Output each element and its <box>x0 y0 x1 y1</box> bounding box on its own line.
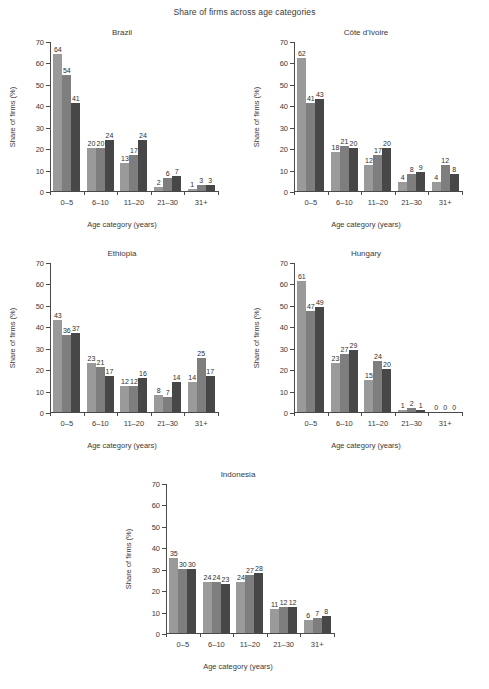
bar-value-label: 8 <box>324 608 328 615</box>
x-axis-tick <box>166 633 167 637</box>
x-axis-category-label: 11–20 <box>368 198 388 207</box>
x-axis-tick <box>50 191 51 195</box>
bar: 27 <box>245 575 254 633</box>
x-axis-category-label: 6–10 <box>92 419 109 428</box>
bar: 35 <box>169 558 178 633</box>
x-axis-tick <box>218 191 219 195</box>
bar-value-label: 4 <box>434 174 438 181</box>
bar-group-bars: 121720 <box>361 41 395 191</box>
bar-value-label: 0 <box>443 404 447 411</box>
x-axis-category-label: 31+ <box>311 640 324 649</box>
bar: 47 <box>306 311 315 412</box>
y-axis-tick-label: 40 <box>152 544 160 553</box>
y-axis-tick-label: 20 <box>36 145 44 154</box>
x-axis-category-label: 0–5 <box>61 419 74 428</box>
bar: 36 <box>62 335 71 412</box>
bar: 9 <box>416 172 425 191</box>
bar: 29 <box>349 350 358 412</box>
bar-group-bars: 353030 <box>166 483 200 633</box>
bar-group: 2321176–10 <box>84 262 118 412</box>
x-axis-category-label: 0–5 <box>305 419 318 428</box>
bar-value-label: 41 <box>307 95 315 102</box>
bar-group: 2020246–10 <box>84 41 118 191</box>
x-axis-category-label: 0–5 <box>305 198 318 207</box>
bar: 28 <box>254 573 263 633</box>
bar-value-label: 3 <box>208 177 212 184</box>
bar-value-label: 23 <box>331 355 339 362</box>
x-axis-tick <box>200 633 201 637</box>
x-axis-tick <box>294 191 295 195</box>
y-axis-tick-label: 60 <box>152 501 160 510</box>
bar-value-label: 12 <box>441 157 449 164</box>
bar: 13 <box>120 163 129 191</box>
bar-group-bars: 111212 <box>267 483 301 633</box>
bar-value-label: 0 <box>452 404 456 411</box>
bar-group-bars: 202024 <box>84 41 118 191</box>
y-axis-tick-label: 20 <box>36 366 44 375</box>
y-axis-tick-label: 60 <box>36 280 44 289</box>
bar: 16 <box>138 378 147 412</box>
bar-group: 4336370–5 <box>50 262 84 412</box>
y-axis-title: Share of firms (%) <box>124 529 133 589</box>
x-axis-title: Age category (years) <box>6 441 238 450</box>
bar: 41 <box>306 103 315 191</box>
y-axis-tick-label: 50 <box>36 80 44 89</box>
bar-value-label: 30 <box>188 561 196 568</box>
x-axis-tick <box>117 412 118 416</box>
bar: 27 <box>340 354 349 412</box>
bar: 21 <box>340 146 349 191</box>
bar-value-label: 8 <box>410 166 414 173</box>
y-axis-tick-label: 70 <box>36 38 44 47</box>
bar: 30 <box>187 569 196 633</box>
panel-ethiopia: Ethiopia0102030405060704336370–52321176–… <box>6 249 238 470</box>
bar: 24 <box>212 582 221 633</box>
bar-value-label: 12 <box>289 599 297 606</box>
bar-group: 15242011–20 <box>361 262 395 412</box>
bar-value-label: 29 <box>349 342 357 349</box>
bar: 1 <box>188 189 197 191</box>
bar: 12 <box>288 607 297 633</box>
bar-value-label: 9 <box>419 164 423 171</box>
x-axis-category-label: 11–20 <box>240 640 260 649</box>
y-axis-title: Share of firms (%) <box>8 308 17 368</box>
bar: 20 <box>382 369 391 412</box>
y-axis-tick-label: 70 <box>36 259 44 268</box>
x-axis-line <box>50 191 218 192</box>
bar-group-bars: 182120 <box>328 41 362 191</box>
bar: 17 <box>206 376 215 412</box>
bar: 18 <box>331 152 340 191</box>
plot-area: 0102030405060706454410–52020246–10131724… <box>50 42 218 192</box>
bar-group-bars: 121 <box>395 262 429 412</box>
y-axis-tick-label: 40 <box>280 323 288 332</box>
bar-group-bars: 645441 <box>50 41 84 191</box>
bar: 17 <box>373 155 382 191</box>
bar-group: 3530300–5 <box>166 483 200 633</box>
bar-value-label: 7 <box>315 610 319 617</box>
panel-title: Ethiopia <box>6 249 238 258</box>
y-axis-tick-label: 0 <box>156 630 160 639</box>
panel-hungary: Hungary0102030405060706147490–52327296–1… <box>250 249 482 470</box>
y-axis-title: Share of firms (%) <box>8 87 17 147</box>
plot-area: 0102030405060704336370–52321176–10121216… <box>50 263 218 413</box>
bar-value-label: 54 <box>63 67 71 74</box>
x-axis-category-label: 21–30 <box>157 419 178 428</box>
panel-row-1: Brazil0102030405060706454410–52020246–10… <box>0 28 489 249</box>
bar-value-label: 7 <box>166 389 170 396</box>
bar-value-label: 25 <box>197 350 205 357</box>
bar: 25 <box>197 358 206 412</box>
bar-value-label: 2 <box>157 179 161 186</box>
x-axis-tick <box>300 633 301 637</box>
bar: 11 <box>270 609 279 633</box>
bar: 20 <box>96 148 105 191</box>
y-axis-tick-label: 10 <box>152 608 160 617</box>
panel-row-2: Ethiopia0102030405060704336370–52321176–… <box>0 249 489 470</box>
y-axis-tick-label: 60 <box>36 59 44 68</box>
x-axis-tick <box>428 412 429 416</box>
bar-value-label: 21 <box>340 138 348 145</box>
x-axis-category-label: 11–20 <box>124 198 144 207</box>
x-axis-category-label: 31+ <box>439 419 452 428</box>
plot-area: 0102030405060706241430–51821206–10121720… <box>294 42 462 192</box>
bar: 23 <box>221 584 230 633</box>
bar-value-label: 16 <box>139 370 147 377</box>
bar-group-bars: 121216 <box>117 262 151 412</box>
